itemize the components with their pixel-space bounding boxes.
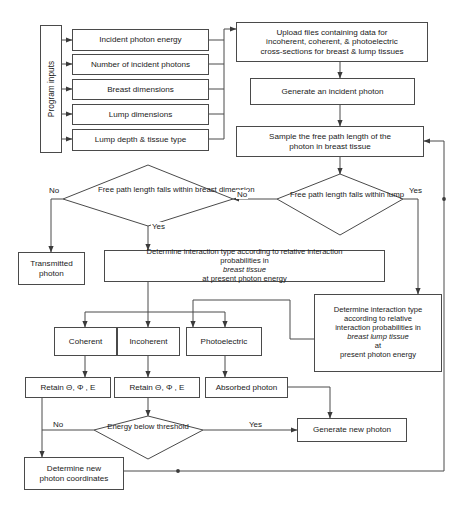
node-generate-incident-photon: Generate an incident photon xyxy=(250,78,415,105)
decision-breast-dimension-text: Free path length falls within breast dim… xyxy=(98,185,198,194)
node-retain-coherent-label: Retain Θ, Φ , E xyxy=(40,383,95,393)
node-generate-incident-photon-label: Generate an incident photon xyxy=(281,87,383,97)
node-incoherent: Incoherent xyxy=(117,327,180,356)
node-breast-dimensions: Breast dimensions xyxy=(72,79,209,100)
decision-energy-line1: Energy below xyxy=(107,422,154,431)
decision-breast-line2: falls within xyxy=(157,185,193,194)
node-determine-lump-line5: present photon energy xyxy=(340,351,416,360)
node-photoelectric-label: Photoelectric xyxy=(201,337,248,347)
edge-label-energy-no: No xyxy=(52,420,64,429)
edge-label-breast-yes: Yes xyxy=(151,222,166,231)
node-coherent: Coherent xyxy=(54,327,117,356)
decision-breast-dimension-shape xyxy=(63,165,233,226)
node-sample-free-path-line1: Sample the free path length of the xyxy=(269,132,391,142)
node-determine-new-coordinates: Determine new photon coordinates xyxy=(24,457,124,490)
node-transmitted-photon-line2: photon xyxy=(39,269,64,279)
edge-label-lump-yes: Yes xyxy=(408,186,423,195)
node-sample-free-path-line2: photon in breast tissue xyxy=(289,142,370,152)
node-lump-depth-tissue-type: Lump depth & tissue type xyxy=(72,129,209,151)
node-upload-files: Upload files containing data for incoher… xyxy=(236,22,428,62)
node-lump-dimensions: Lump dimensions xyxy=(72,104,209,125)
edge-label-middle-no: No xyxy=(236,190,248,199)
decision-lump-line2: falls within lump xyxy=(349,190,404,199)
decision-breast-line1: Free path length xyxy=(98,185,155,194)
edge-label-energy-yes: Yes xyxy=(248,420,263,429)
determine-breast-suffix: at present photon energy xyxy=(202,275,286,284)
node-determine-new-coordinates-line2: photon coordinates xyxy=(40,474,109,484)
node-generate-new-photon-label: Generate new photon xyxy=(313,425,391,435)
node-transmitted-photon-line1: Transmitted xyxy=(30,259,72,269)
node-incident-photon-energy: Incident photon energy xyxy=(72,29,209,51)
node-photoelectric: Photoelectric xyxy=(186,327,262,356)
node-absorbed-photon: Absorbed photon xyxy=(205,377,288,398)
node-number-of-incident-photons: Number of incident photons xyxy=(72,54,209,75)
decision-energy-line2: threshold xyxy=(157,422,189,431)
node-determine-lump-tissue: Determine interaction type according to … xyxy=(314,294,442,372)
decision-energy-threshold-text: Energy below threshold xyxy=(103,422,193,431)
node-determine-new-coordinates-line1: Determine new xyxy=(47,464,101,474)
decision-lump-text: Free path length falls within lump xyxy=(290,190,390,199)
node-transmitted-photon: Transmitted photon xyxy=(18,252,85,285)
edge-label-breast-no: No xyxy=(48,186,60,195)
node-generate-new-photon: Generate new photon xyxy=(297,418,407,442)
node-upload-files-line3: cross-sections for breast & lump tissues xyxy=(260,47,403,57)
node-upload-files-line1: Upload files containing data for xyxy=(276,28,387,38)
node-program-inputs: Program inputs xyxy=(40,25,62,153)
node-incident-photon-energy-label: Incident photon energy xyxy=(99,35,181,45)
node-lump-dimensions-label: Lump dimensions xyxy=(109,110,172,120)
node-absorbed-photon-label: Absorbed photon xyxy=(216,383,278,393)
node-upload-files-line2: incoherent, coherent, & photoelectric xyxy=(266,37,398,47)
node-sample-free-path: Sample the free path length of the photo… xyxy=(236,126,424,157)
decision-lump-line1: Free path length xyxy=(290,190,347,199)
node-retain-incoherent: Retain Θ, Φ , E xyxy=(114,377,200,398)
node-program-inputs-label: Program inputs xyxy=(46,61,56,117)
node-determine-lump-line4: breast lump tissue at xyxy=(347,333,409,351)
decision-lump-shape xyxy=(277,174,403,235)
node-incoherent-label: Incoherent xyxy=(129,337,167,347)
node-determine-breast-tissue: Determine interaction type according to … xyxy=(104,250,385,282)
node-retain-incoherent-label: Retain Θ, Φ , E xyxy=(129,383,184,393)
node-number-of-incident-photons-label: Number of incident photons xyxy=(91,60,190,70)
node-breast-dimensions-label: Breast dimensions xyxy=(107,85,174,95)
node-determine-breast-line2: probabilities in breast tissue at presen… xyxy=(202,257,286,284)
node-lump-depth-tissue-type-label: Lump depth & tissue type xyxy=(95,135,186,145)
flowchart-canvas: Program inputs Incident photon energy Nu… xyxy=(0,0,457,511)
node-coherent-label: Coherent xyxy=(69,337,102,347)
node-retain-coherent: Retain Θ, Φ , E xyxy=(25,377,111,398)
